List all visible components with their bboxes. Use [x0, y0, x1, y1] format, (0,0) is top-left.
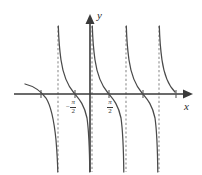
x-axis-arrowhead	[183, 90, 193, 99]
tangent-function-graph: y x −π2 π2	[0, 0, 202, 175]
fraction-neg-pi-2: π2	[70, 99, 76, 115]
fraction-denominator: 2	[107, 108, 113, 115]
fraction-pi-2: π2	[107, 99, 113, 115]
x-axis-label: x	[183, 100, 189, 112]
fraction-numerator: π	[107, 99, 113, 106]
fraction-denominator: 2	[70, 108, 76, 115]
curve-branch	[126, 26, 158, 172]
tick-label-neg-pi-over-2: −π2	[60, 99, 82, 115]
y-axis-arrowhead	[86, 14, 95, 24]
tick-label-pi-over-2: π2	[100, 99, 120, 115]
y-axis-label: y	[96, 9, 102, 21]
plot-area: y x	[0, 0, 202, 175]
curve-branch	[159, 26, 175, 92]
fraction-numerator: π	[70, 99, 76, 106]
